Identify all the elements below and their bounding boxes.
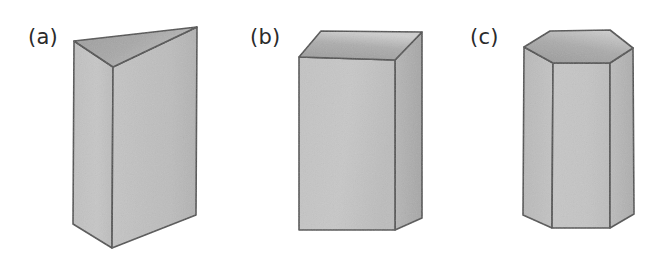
rectangular-prism-right-face bbox=[395, 32, 422, 230]
triangular-prism-left-face bbox=[73, 41, 113, 248]
panel-label-b: (b) bbox=[250, 27, 280, 48]
panel-label-a: (a) bbox=[28, 27, 58, 48]
hexagonal-prism-front-face bbox=[552, 63, 610, 228]
triangular-prism-shape bbox=[73, 27, 197, 248]
rectangular-prism-front-face bbox=[299, 57, 395, 230]
hexagonal-prism-left-face bbox=[523, 47, 553, 228]
hexagonal-prism-shape bbox=[523, 30, 634, 228]
rectangular-prism-shape bbox=[299, 31, 422, 230]
hexagonal-prism-right-face bbox=[610, 48, 634, 228]
prisms-illustration bbox=[0, 0, 664, 267]
panel-label-c: (c) bbox=[470, 27, 499, 48]
prisms-figure: (a) (b) (c) bbox=[0, 0, 664, 267]
